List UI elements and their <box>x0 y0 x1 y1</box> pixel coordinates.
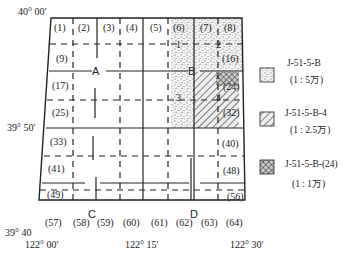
lat-mid-label: 39° 50′ <box>7 122 36 133</box>
svg-text:(6): (6) <box>173 22 185 34</box>
quadrant-c-label: C <box>88 208 96 220</box>
quadrant-d-label: D <box>190 208 198 220</box>
svg-text:J-51-5-B: J-51-5-B <box>287 58 321 68</box>
svg-text:(63): (63) <box>201 217 218 229</box>
lat-top-label: 40° 00′ <box>18 6 47 17</box>
quadrant-a-label: A <box>92 65 100 77</box>
legend-swatch-crosshatch <box>260 160 274 174</box>
legend-swatch-dots <box>260 68 274 82</box>
svg-text:(5): (5) <box>150 22 162 34</box>
svg-text:(3): (3) <box>103 22 115 34</box>
svg-text:(25): (25) <box>52 107 69 119</box>
svg-text:(32): (32) <box>223 107 240 119</box>
svg-text:(4): (4) <box>126 22 138 34</box>
quadrant-b-label: B <box>188 65 195 77</box>
svg-text:(9): (9) <box>56 53 68 65</box>
svg-text:(48): (48) <box>223 165 240 177</box>
svg-text:(40): (40) <box>222 138 239 150</box>
svg-text:(49): (49) <box>47 189 64 201</box>
svg-text:(1 : 1万): (1 : 1万) <box>292 179 325 190</box>
lon-right-label: 122° 30′ <box>230 239 264 250</box>
sub-label-2: 2 <box>216 39 221 50</box>
svg-text:(7): (7) <box>200 22 212 34</box>
map-sheet-diagram: (1) (2) (3) (4) (5) (6) (7) (8) (9) (16)… <box>0 0 343 264</box>
legend: J-51-5-B (1 : 5万) J-51-5-B-4 (1 : 2.5万) … <box>260 58 338 190</box>
svg-text:(8): (8) <box>224 22 236 34</box>
lon-mid-label: 122° 15′ <box>125 239 159 250</box>
lon-left-label: 122° 00′ <box>25 239 59 250</box>
svg-text:(41): (41) <box>48 163 65 175</box>
svg-text:(64): (64) <box>226 217 243 229</box>
svg-text:(59): (59) <box>97 217 114 229</box>
svg-text:(24): (24) <box>223 81 240 93</box>
svg-text:(57): (57) <box>45 217 62 229</box>
sub-label-1: 1 <box>176 39 181 50</box>
svg-text:(60): (60) <box>123 217 140 229</box>
svg-text:(61): (61) <box>151 217 168 229</box>
lat-bottom-label: 39° 40 <box>5 227 32 238</box>
svg-text:J-51-5-B-(24): J-51-5-B-(24) <box>285 159 338 170</box>
svg-text:(2): (2) <box>78 22 90 34</box>
svg-text:(1 : 5万): (1 : 5万) <box>290 75 323 86</box>
svg-text:J-51-5-B-4: J-51-5-B-4 <box>285 108 327 118</box>
sub-label-4: 4 <box>216 92 221 103</box>
svg-text:(56): (56) <box>227 191 244 203</box>
svg-text:(17): (17) <box>52 80 69 92</box>
legend-swatch-hatch <box>260 112 274 126</box>
svg-text:(33): (33) <box>50 136 67 148</box>
svg-text:(16): (16) <box>222 53 239 65</box>
svg-text:(1 : 2.5万): (1 : 2.5万) <box>290 125 330 136</box>
sub-label-3: 3 <box>176 92 181 103</box>
svg-text:(1): (1) <box>54 22 66 34</box>
